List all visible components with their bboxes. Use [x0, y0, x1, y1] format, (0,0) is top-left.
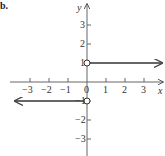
x-axis-label: x	[158, 86, 162, 96]
y-tick-label: −1	[75, 96, 86, 106]
x-tick-label: 1	[103, 85, 108, 95]
y-axis-label: y	[77, 3, 81, 13]
y-tick-label: 1	[80, 58, 85, 68]
y-tick-label: 3	[80, 20, 85, 30]
x-tick-label: 3	[141, 85, 146, 95]
y-tick-label: −2	[75, 115, 86, 125]
x-tick-label: −2	[41, 85, 52, 95]
x-tick-label: −3	[22, 85, 33, 95]
x-tick-label: 0	[84, 85, 89, 95]
y-tick-label: −3	[75, 134, 86, 144]
x-tick-label: 2	[122, 85, 127, 95]
y-tick-label: 2	[80, 39, 85, 49]
x-tick-label: −1	[60, 85, 71, 95]
